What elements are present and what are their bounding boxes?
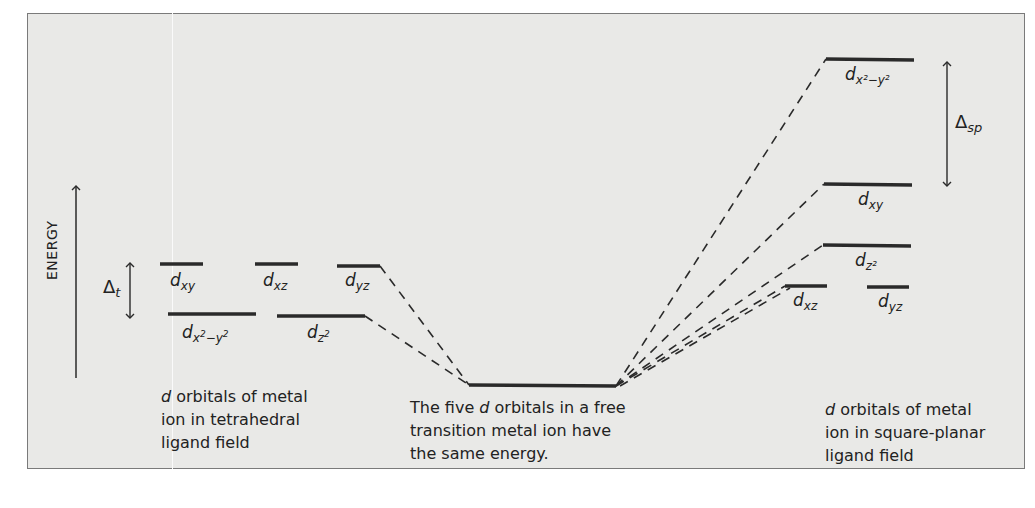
energy-axis-label: ENERGY	[44, 220, 60, 280]
caption-tetrahedral: d orbitals of metal ion in tetrahedral l…	[161, 385, 308, 454]
orbital-label-dxy-tetrahedral: dxy	[170, 270, 195, 293]
orbital-label-dxz-square-planar: dxz	[793, 290, 817, 313]
orbital-label-dz2-square-planar: dz²	[855, 250, 877, 273]
delta-t-label: Δt	[103, 276, 120, 300]
orbital-label-dx2y2-tetrahedral: dx2−y2	[182, 322, 229, 345]
caption-free-ion: The five d orbitals in a free transition…	[410, 396, 626, 465]
orbital-label-dxz-tetrahedral: dxz	[263, 270, 287, 293]
orbital-label-dyz-tetrahedral: dyz	[345, 270, 369, 293]
orbital-label-dyz-square-planar: dyz	[878, 291, 902, 314]
free-ion-level	[469, 385, 616, 386]
caption-square-planar: d orbitals of metal ion in square-planar…	[825, 398, 985, 467]
orbital-label-dx2y2-square-planar: dx²−y²	[845, 64, 890, 87]
orbital-label-dz2-tetrahedral: dz2	[307, 322, 330, 345]
delta-sp-label: Δsp	[955, 111, 982, 135]
orbital-label-dxy-square-planar: dxy	[858, 189, 883, 212]
